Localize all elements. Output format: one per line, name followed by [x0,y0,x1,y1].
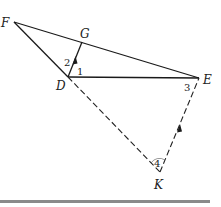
parallel-arrow-icon-DG [73,56,78,65]
label-F: F [0,16,10,30]
label-G: G [80,27,90,41]
angle-3-label: 3 [184,82,190,93]
label-D: D [55,79,66,93]
segment-EK [160,78,199,172]
angle-4-label: 4 [154,158,160,169]
segment-DE [68,77,199,78]
label-K: K [153,178,164,192]
bottom-divider-bar [0,200,210,203]
label-E: E [202,73,212,87]
geometry-diagram: F G D E K 1 2 3 4 [0,0,221,207]
angle-1-label: 1 [77,66,83,77]
angle-2-label: 2 [64,57,70,68]
segment-DK [68,77,160,172]
